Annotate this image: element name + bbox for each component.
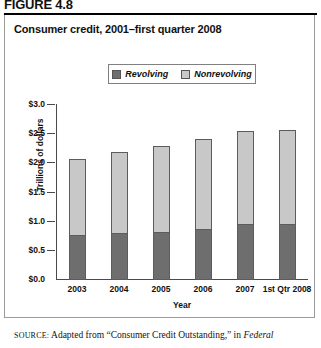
y-axis-tick: [47, 104, 55, 105]
bar-segment-revolving: [237, 224, 254, 280]
y-axis-tick: [47, 192, 55, 193]
x-tick-label: 2006: [194, 284, 213, 294]
bar-segment-revolving: [111, 233, 128, 280]
bar-group: [69, 159, 86, 280]
bar-segment-revolving: [195, 229, 212, 280]
x-tick-label: 2004: [110, 284, 129, 294]
source-publication: Federal: [243, 330, 273, 340]
x-tick-label: 2007: [236, 284, 255, 294]
x-tick-label: 2005: [152, 284, 171, 294]
legend-item-revolving: Revolving: [112, 69, 168, 79]
y-axis-tick: [47, 221, 55, 222]
bar-segment-nonrevolving: [237, 131, 254, 224]
legend-item-nonrevolving: Nonrevolving: [181, 69, 252, 79]
y-tick-label: $0.0: [28, 274, 45, 284]
y-axis-tick: [47, 162, 55, 163]
chart-legend: Revolving Nonrevolving: [108, 64, 256, 84]
x-tick-label: 2003: [68, 284, 87, 294]
source-text: Adapted from “Consumer Credit Outstandin…: [49, 330, 243, 340]
bar-segment-nonrevolving: [279, 130, 296, 224]
bar-group: [237, 131, 254, 280]
legend-label-nonrevolving: Nonrevolving: [194, 69, 252, 79]
bar-segment-nonrevolving: [153, 146, 170, 231]
y-axis-title: Trillions of dollars: [35, 95, 45, 215]
bar-group: [153, 146, 170, 280]
bar-group: [195, 139, 212, 280]
bar-segment-nonrevolving: [111, 152, 128, 233]
legend-label-revolving: Revolving: [125, 69, 168, 79]
source-prefix: SOURCE:: [14, 331, 49, 340]
source-note: SOURCE: Adapted from “Consumer Credit Ou…: [14, 330, 314, 342]
bar-group: [111, 152, 128, 280]
x-axis-title: Year: [56, 300, 308, 310]
y-axis-tick: [47, 133, 55, 134]
bar-segment-nonrevolving: [69, 159, 86, 235]
bar-segment-revolving: [153, 232, 170, 280]
y-axis-tick: [47, 250, 55, 251]
y-tick-label: $1.0: [28, 216, 45, 226]
x-tick-label: 1st Qtr 2008: [263, 284, 312, 294]
legend-swatch-revolving: [112, 70, 121, 79]
legend-swatch-nonrevolving: [181, 70, 190, 79]
bar-segment-nonrevolving: [195, 139, 212, 228]
plot-area: [56, 104, 308, 280]
y-tick-label: $0.5: [28, 245, 45, 255]
bar-group: [279, 130, 296, 280]
bar-segment-revolving: [279, 224, 296, 280]
bar-segment-revolving: [69, 235, 86, 280]
chart-title: Consumer credit, 2001–first quarter 2008: [14, 23, 221, 35]
